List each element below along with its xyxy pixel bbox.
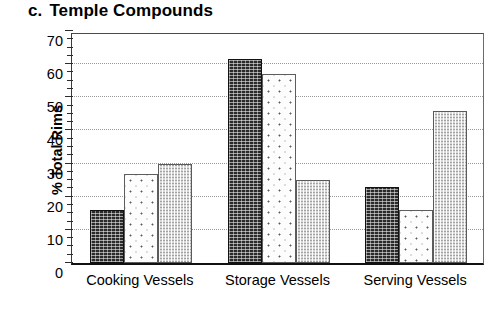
gridline: [72, 63, 483, 64]
y-axis-minor-tick: [67, 38, 73, 39]
bar: [158, 164, 192, 263]
y-axis-minor-tick: [67, 212, 73, 213]
bar: [228, 59, 262, 263]
y-axis-minor-tick: [67, 187, 73, 188]
y-axis-minor-tick: [67, 105, 73, 106]
x-axis-category-label: Storage Vessels: [225, 272, 330, 288]
y-axis-minor-tick: [67, 179, 73, 180]
y-axis-tick: [65, 196, 73, 197]
y-axis-tick: [65, 96, 73, 97]
y-axis-minor-tick: [67, 204, 73, 205]
y-axis-minor-tick: [67, 221, 73, 222]
bar: [365, 187, 399, 263]
bar: [399, 210, 433, 263]
chart-figure: c.Temple Compounds % Total Rims 01020304…: [0, 0, 499, 309]
y-axis-minor-tick: [67, 146, 73, 147]
bar: [262, 74, 296, 263]
y-axis-tick: [65, 163, 73, 164]
y-axis-minor-tick: [67, 138, 73, 139]
y-axis-minor-tick: [67, 121, 73, 122]
y-axis-minor-tick: [67, 154, 73, 155]
y-axis-tick: [65, 63, 73, 64]
y-axis-minor-tick: [67, 71, 73, 72]
y-axis-tick: [65, 229, 73, 230]
plot-area: 010203040506070: [71, 33, 484, 265]
y-axis-minor-tick: [67, 113, 73, 114]
y-axis-tick: [65, 129, 73, 130]
x-axis-category-label: Serving Vessels: [364, 272, 467, 288]
chart-title: c.Temple Compounds: [28, 1, 213, 21]
x-axis-category-label: Cooking Vessels: [86, 272, 193, 288]
y-axis-minor-tick: [67, 47, 73, 48]
y-axis-minor-tick: [67, 171, 73, 172]
bar: [433, 111, 467, 263]
chart-title-text: Temple Compounds: [49, 1, 213, 20]
y-axis-minor-tick: [67, 254, 73, 255]
y-axis-minor-tick: [67, 88, 73, 89]
bar: [90, 210, 124, 263]
bar: [296, 180, 330, 263]
y-axis-minor-tick: [67, 245, 73, 246]
y-axis-minor-tick: [67, 237, 73, 238]
y-axis-minor-tick: [67, 80, 73, 81]
y-axis-tick: [65, 30, 73, 31]
y-axis-minor-tick: [67, 55, 73, 56]
y-axis-tick: [65, 262, 73, 263]
bar: [124, 174, 158, 263]
chart-title-prefix: c.: [28, 1, 42, 20]
